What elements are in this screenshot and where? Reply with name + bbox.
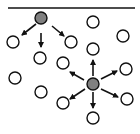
- inactive-node: [117, 30, 129, 42]
- inactive-node: [65, 36, 77, 48]
- inactive-node: [57, 97, 69, 109]
- inactive-node: [34, 52, 46, 64]
- background: [0, 0, 140, 134]
- active-node: [35, 12, 47, 24]
- inactive-node: [87, 16, 99, 28]
- inactive-node: [87, 43, 99, 55]
- inactive-node: [87, 112, 99, 124]
- diffusion-diagram: [0, 0, 140, 134]
- inactive-node: [9, 72, 21, 84]
- inactive-node: [57, 57, 69, 69]
- inactive-node: [35, 86, 47, 98]
- inactive-node: [120, 63, 132, 75]
- inactive-node: [7, 36, 19, 48]
- active-node: [87, 78, 99, 90]
- inactive-node: [121, 93, 133, 105]
